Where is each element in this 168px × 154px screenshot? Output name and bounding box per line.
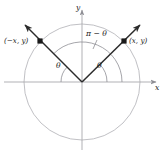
- figure-canvas: [0, 0, 168, 154]
- theta-left-arc: [61, 67, 67, 82]
- point-label-right: (x, y): [129, 37, 147, 44]
- point-marker-left: [37, 38, 42, 43]
- point-marker-right: [121, 38, 126, 43]
- y-axis-label: y: [76, 4, 80, 12]
- angle-label-theta-left: θ: [56, 62, 61, 70]
- unit-circle-figure: (−x, y) (x, y) θ θ π − θ y x: [0, 0, 168, 154]
- x-axis-label: x: [155, 84, 159, 92]
- point-label-left: (−x, y): [4, 37, 28, 44]
- angle-label-pi-minus-theta: π − θ: [86, 30, 107, 38]
- angle-label-theta-right: θ: [97, 62, 102, 70]
- ray-left: [25, 25, 82, 82]
